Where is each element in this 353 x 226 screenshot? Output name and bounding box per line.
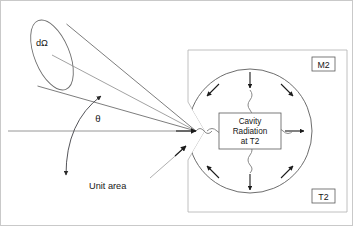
material-label: M2 bbox=[312, 57, 335, 71]
cavity-label-box: Cavity Radiation at T2 bbox=[219, 113, 281, 149]
cavity-label-line-3: at T2 bbox=[241, 137, 260, 146]
cone-edge-upper bbox=[67, 24, 197, 131]
theta-label: θ bbox=[95, 113, 100, 124]
cone-edge-lower bbox=[38, 86, 197, 131]
solid-angle-label: dΩ bbox=[36, 38, 48, 48]
theta-angle-arc bbox=[66, 96, 101, 175]
cavity-radiation-diagram: Cavity Radiation at T2 M2 T2 bbox=[0, 0, 353, 226]
cavity-label-line-2: Radiation bbox=[233, 127, 268, 136]
temperature-label-text: T2 bbox=[318, 192, 328, 202]
unit-area-arrow bbox=[175, 146, 186, 156]
material-label-text: M2 bbox=[317, 60, 329, 70]
cavity-label-line-1: Cavity bbox=[239, 117, 263, 126]
solid-angle-cone bbox=[22, 14, 196, 131]
figure-root: Cavity Radiation at T2 M2 T2 bbox=[0, 0, 353, 226]
unit-area-annotation: Unit area bbox=[89, 146, 186, 191]
temperature-label: T2 bbox=[312, 189, 335, 203]
cone-axis bbox=[52, 55, 196, 131]
unit-area-label: Unit area bbox=[89, 181, 127, 191]
